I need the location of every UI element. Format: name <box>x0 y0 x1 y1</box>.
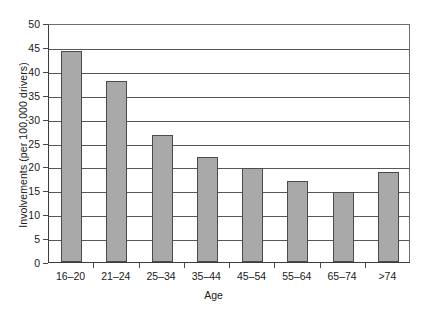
bar <box>242 168 263 262</box>
bar <box>333 192 354 262</box>
bar <box>152 135 173 262</box>
y-tick-label: 35 <box>16 91 40 102</box>
x-tick-mark <box>274 263 275 268</box>
bars-layer <box>49 25 409 262</box>
y-tick-label: 15 <box>16 186 40 197</box>
x-tick-mark <box>229 263 230 268</box>
y-tick-label: 0 <box>16 258 40 269</box>
plot-area <box>48 24 410 263</box>
y-tick-label: 25 <box>16 139 40 150</box>
x-tick-mark <box>184 263 185 268</box>
x-tick-mark <box>139 263 140 268</box>
y-tick-label: 10 <box>16 210 40 221</box>
bar <box>197 157 218 262</box>
y-tick-label: 30 <box>16 115 40 126</box>
bar <box>378 172 399 262</box>
bar-chart: Involvements (per 100,000 drivers) 50454… <box>0 0 427 312</box>
x-tick-mark <box>320 263 321 268</box>
y-tick-label: 20 <box>16 162 40 173</box>
y-tick-label: 45 <box>16 43 40 54</box>
bar <box>61 51 82 262</box>
bar <box>106 81 127 262</box>
y-tick-label: 50 <box>16 19 40 30</box>
x-axis-title: Age <box>0 289 427 301</box>
y-tick-label: 40 <box>16 67 40 78</box>
x-tick-mark <box>365 263 366 268</box>
y-tick-mark <box>43 263 48 264</box>
x-tick-mark <box>93 263 94 268</box>
y-tick-label: 5 <box>16 234 40 245</box>
bar <box>287 181 308 262</box>
x-tick-label: >74 <box>357 271 417 282</box>
